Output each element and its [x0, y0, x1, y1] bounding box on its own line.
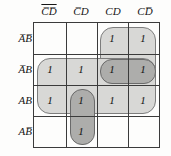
- column-header-0-c: C̅D̅: [41, 5, 56, 17]
- kmap-grid: 1 1 1 1 1 1 1 1 1 1 1: [33, 22, 160, 148]
- column-header-cd: CD: [97, 2, 129, 20]
- row-header-a-bar-b: A̅B: [0, 61, 32, 77]
- row-header-ab: AB: [0, 92, 32, 108]
- cell-r3-c1[interactable]: 1: [65, 116, 97, 147]
- cell-r1-c3[interactable]: 1: [127, 54, 159, 85]
- cell-r0-c1[interactable]: [65, 23, 97, 54]
- cell-r0-c2[interactable]: 1: [96, 23, 128, 54]
- cell-r3-c2[interactable]: [96, 116, 128, 147]
- cell-r3-c0[interactable]: [34, 116, 66, 147]
- column-header-1-text: C̅D: [73, 5, 88, 17]
- cell-r2-c1[interactable]: 1: [65, 85, 97, 116]
- cell-r0-c0[interactable]: [34, 23, 66, 54]
- cell-r1-c0[interactable]: 1: [34, 54, 66, 85]
- cell-r1-c1[interactable]: 1: [65, 54, 97, 85]
- row-header-2-text: AB: [19, 94, 32, 106]
- cell-r2-c2[interactable]: 1: [96, 85, 128, 116]
- cell-r1-c2[interactable]: 1: [96, 54, 128, 85]
- cell-r2-c0[interactable]: 1: [34, 85, 66, 116]
- row-header-1-text: A̅B: [19, 63, 32, 75]
- row-header-a-bar-b-bar: A̅B̅: [0, 30, 32, 46]
- column-header-c-bar-d: C̅D: [65, 2, 97, 20]
- column-header-c-d-bar: CD̅: [129, 2, 161, 20]
- row-header-a-b-bar: AB̅: [0, 123, 32, 139]
- column-header-cd-bar-d-bar: C̅D̅: [33, 2, 65, 20]
- kmap-cell-layer: 1 1 1 1 1 1 1 1 1 1 1: [34, 23, 161, 149]
- cell-r2-c3[interactable]: 1: [127, 85, 159, 116]
- karnaugh-map-diagram: C̅D̅ C̅D CD CD̅ A̅B̅ A̅B AB AB̅: [0, 0, 171, 156]
- column-header-3-text: CD̅: [137, 5, 152, 17]
- row-header-3-text: AB̅: [19, 125, 32, 137]
- cell-r0-c3[interactable]: 1: [127, 23, 159, 54]
- row-header-0-text: A̅B̅: [19, 32, 32, 44]
- column-header-2-text: CD: [105, 5, 120, 17]
- cell-r3-c3[interactable]: [127, 116, 159, 147]
